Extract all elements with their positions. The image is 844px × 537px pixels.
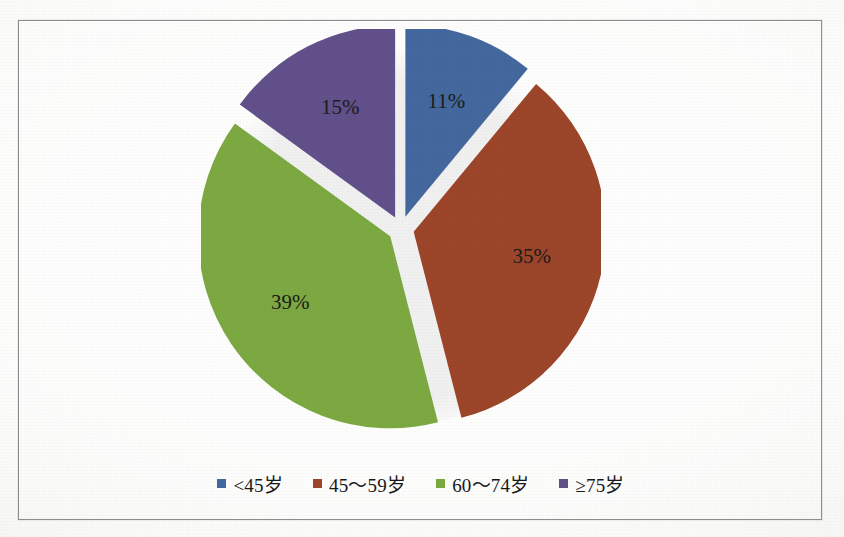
pie-label-gte75: 15%: [321, 95, 360, 119]
legend-swatch-icon-lt45: [217, 479, 226, 488]
scanned-page: 11% 35% 39% 15% <45岁 45～59岁 60～74岁 ≥7: [0, 0, 844, 537]
legend-label-60-74: 60～74岁: [452, 470, 529, 497]
pie-label-lt45: 11%: [428, 89, 466, 113]
legend-swatch-icon-45-59: [313, 479, 322, 488]
legend-swatch-icon-60-74: [436, 479, 445, 488]
legend-item-45-59[interactable]: 45～59岁: [313, 470, 406, 497]
legend-label-lt45: <45岁: [233, 470, 283, 497]
legend-item-gte75[interactable]: ≥75岁: [559, 470, 624, 497]
pie-svg: 11% 35% 39% 15%: [201, 29, 601, 429]
chart-frame: 11% 35% 39% 15% <45岁 45～59岁 60～74岁 ≥7: [18, 20, 822, 520]
legend-item-60-74[interactable]: 60～74岁: [436, 470, 529, 497]
pie-chart: 11% 35% 39% 15%: [19, 21, 823, 441]
pie-label-45-59: 35%: [512, 244, 551, 268]
chart-legend: <45岁 45～59岁 60～74岁 ≥75岁: [19, 470, 823, 497]
legend-label-gte75: ≥75岁: [575, 470, 624, 497]
legend-swatch-icon-gte75: [559, 479, 568, 488]
pie-label-60-74: 39%: [271, 290, 310, 314]
legend-label-45-59: 45～59岁: [329, 470, 406, 497]
legend-item-lt45[interactable]: <45岁: [217, 470, 283, 497]
